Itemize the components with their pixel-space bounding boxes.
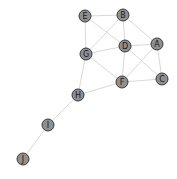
node-label: F (120, 78, 125, 87)
node-label: C (159, 75, 165, 84)
network-graph: ABCDEFGHIJ (0, 0, 177, 179)
node-c: C (156, 73, 168, 85)
edge-b-a (123, 15, 157, 44)
node-label: D (122, 42, 128, 51)
node-d: D (119, 40, 131, 52)
edge-d-c (125, 46, 162, 79)
node-label: A (154, 40, 160, 49)
node-label: H (75, 91, 81, 100)
node-i: I (42, 119, 54, 131)
node-b: B (117, 9, 129, 21)
node-label: G (83, 50, 89, 59)
node-h: H (72, 89, 84, 101)
node-label: E (82, 12, 87, 21)
node-j: J (17, 153, 29, 165)
node-label: I (47, 121, 49, 130)
node-e: E (79, 10, 91, 22)
node-g: G (80, 48, 92, 60)
edge-e-d (85, 16, 125, 46)
node-f: F (116, 76, 128, 88)
node-label: B (120, 11, 126, 20)
edge-f-h (78, 82, 122, 95)
node-label: J (21, 155, 24, 164)
edge-g-f (86, 54, 122, 82)
nodes-layer: ABCDEFGHIJ (17, 9, 168, 165)
edges-layer (23, 15, 162, 159)
node-a: A (151, 38, 163, 50)
